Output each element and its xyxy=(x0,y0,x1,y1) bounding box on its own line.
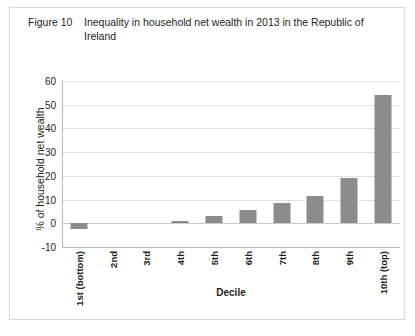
bar xyxy=(341,178,358,223)
bar-slot xyxy=(163,81,197,247)
x-tick-slot: 1st (bottom) xyxy=(62,249,96,311)
bar xyxy=(307,196,324,223)
x-axis-title: Decile xyxy=(62,287,400,298)
x-tick-slot: 3rd xyxy=(130,249,164,311)
bar xyxy=(239,210,256,223)
x-tick-label: 6th xyxy=(242,251,253,265)
x-tick-label: 5th xyxy=(209,251,220,265)
x-tick-slot: 2nd xyxy=(96,249,130,311)
x-tick-label: 8th xyxy=(310,251,321,265)
x-tick-slot: 8th xyxy=(299,249,333,311)
x-tick-label: 7th xyxy=(276,251,287,265)
x-tick-label: 2nd xyxy=(107,251,118,268)
x-tick-label: 3rd xyxy=(141,251,152,266)
bar xyxy=(70,223,87,229)
bar-slot xyxy=(197,81,231,247)
x-tick-slot: 7th xyxy=(265,249,299,311)
y-tick-label: 60 xyxy=(8,76,62,87)
bar-slot xyxy=(299,81,333,247)
bar xyxy=(375,95,392,223)
bar-slot xyxy=(332,81,366,247)
y-axis-title: % of household net wealth xyxy=(33,86,47,252)
bar-slot xyxy=(96,81,130,247)
chart-plot: 6050403020100-10 % of household net weal… xyxy=(0,0,415,336)
x-tick-slot: 5th xyxy=(197,249,231,311)
bar-slot xyxy=(366,81,400,247)
x-tick-label: 9th xyxy=(344,251,355,265)
bar-slot xyxy=(62,81,96,247)
bar xyxy=(206,216,223,223)
x-tick-slot: 9th xyxy=(332,249,366,311)
x-tick-label: 4th xyxy=(175,251,186,265)
bar-slot xyxy=(231,81,265,247)
x-tick-slot: 10th (top) xyxy=(366,249,400,311)
x-tick-slot: 6th xyxy=(231,249,265,311)
bar-series xyxy=(62,81,400,247)
x-axis-line xyxy=(62,247,400,248)
bar-slot xyxy=(130,81,164,247)
bar xyxy=(273,203,290,223)
bar xyxy=(172,221,189,223)
x-tick-slot: 4th xyxy=(163,249,197,311)
y-axis-title-box: % of household net wealth xyxy=(20,81,34,247)
bar-slot xyxy=(265,81,299,247)
x-axis-ticks: 1st (bottom)2nd3rd4th5th6th7th8th9th10th… xyxy=(62,249,400,311)
